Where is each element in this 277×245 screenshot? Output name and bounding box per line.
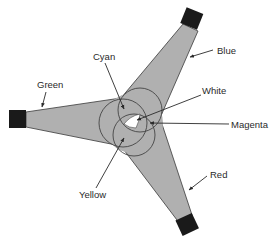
label-cyan: Cyan [93, 52, 115, 62]
label-green: Green [37, 80, 63, 90]
label-white: White [202, 86, 226, 96]
label-yellow: Yellow [79, 190, 106, 200]
green-arrow [42, 92, 46, 107]
green-projector [9, 110, 26, 128]
label-magenta: Magenta [231, 120, 268, 130]
blue-arrow [190, 50, 213, 57]
label-red: Red [210, 170, 227, 180]
yellow-arrow [96, 138, 124, 188]
label-blue: Blue [217, 46, 236, 56]
red-arrow [189, 176, 207, 190]
